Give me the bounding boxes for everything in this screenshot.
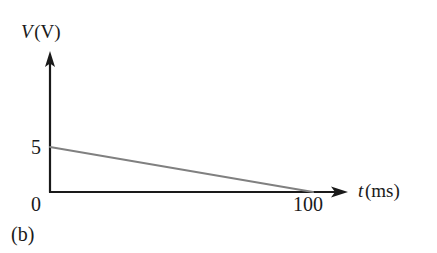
y-tick-label-5: 5 bbox=[31, 137, 41, 157]
y-axis-variable-symbol: V bbox=[21, 21, 33, 42]
x-axis-unit: (ms) bbox=[365, 180, 400, 201]
figure-panel-b: V (V) t (ms) 5 0 100 (b) bbox=[0, 0, 437, 253]
panel-caption: (b) bbox=[11, 224, 34, 244]
y-axis-title: V (V) bbox=[21, 22, 61, 41]
y-axis-unit: (V) bbox=[34, 21, 60, 42]
x-tick-label-0: 0 bbox=[31, 194, 41, 214]
plot-canvas bbox=[0, 0, 437, 253]
data-series-voltage bbox=[50, 147, 313, 192]
x-tick-label-100: 100 bbox=[293, 194, 323, 214]
x-axis-title: t (ms) bbox=[358, 181, 400, 200]
